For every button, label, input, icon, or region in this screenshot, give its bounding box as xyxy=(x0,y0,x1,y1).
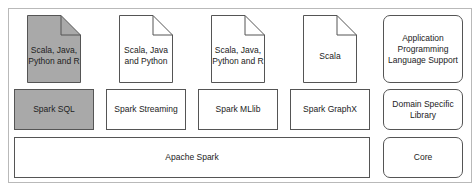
language-doc-text: Scala xyxy=(303,15,357,83)
legend-domain-specific-library: Domain SpecificLibrary xyxy=(383,89,463,130)
apache-spark-core: Apache Spark xyxy=(14,137,370,178)
language-doc-spark-streaming: Scala, Javaand Python xyxy=(119,15,173,83)
language-doc-spark-sql: Scala, Java,Python and R xyxy=(27,15,81,83)
library-spark-mllib: Spark MLlib xyxy=(198,89,278,130)
library-spark-sql: Spark SQL xyxy=(14,89,94,130)
legend-api-support: ApplicationProgrammingLanguage Support xyxy=(383,15,463,83)
language-doc-spark-mllib: Scala, Java,Python and R xyxy=(211,15,265,83)
library-spark-streaming: Spark Streaming xyxy=(106,89,186,130)
language-doc-text: Scala, Java,Python and R xyxy=(211,15,265,83)
language-doc-spark-graphx: Scala xyxy=(303,15,357,83)
legend-core: Core xyxy=(383,137,463,178)
language-doc-text: Scala, Java,Python and R xyxy=(27,15,81,83)
language-doc-text: Scala, Javaand Python xyxy=(119,15,173,83)
library-spark-graphx: Spark GraphX xyxy=(290,89,370,130)
